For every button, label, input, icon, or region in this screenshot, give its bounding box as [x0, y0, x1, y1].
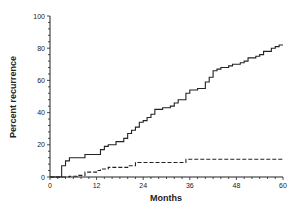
solid-series-line: [50, 45, 283, 177]
x-tick-label: 12: [93, 182, 101, 189]
y-tick-label: 40: [37, 109, 45, 116]
y-tick-label: 60: [37, 77, 45, 84]
x-tick-label: 60: [279, 182, 287, 189]
y-tick-label: 0: [41, 174, 45, 181]
dashed-series-line: [50, 159, 283, 177]
series: [50, 45, 283, 177]
y-tick-label: 80: [37, 45, 45, 52]
kaplan-meier-chart: 01224364860020406080100 Months Percent r…: [0, 0, 302, 209]
y-axis-label: Percent recurrence: [8, 56, 18, 138]
y-tick-label: 100: [33, 13, 45, 20]
y-tick-label: 20: [37, 141, 45, 148]
axes: 01224364860020406080100: [33, 13, 287, 190]
x-tick-label: 48: [233, 182, 241, 189]
x-axis-label: Months: [150, 193, 182, 203]
x-tick-label: 0: [48, 182, 52, 189]
x-tick-label: 36: [186, 182, 194, 189]
x-tick-label: 24: [139, 182, 147, 189]
